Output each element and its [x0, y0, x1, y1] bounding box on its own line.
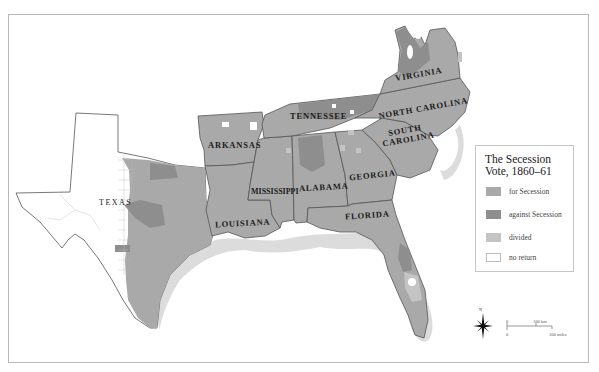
state-arkansas: [198, 112, 264, 166]
state-texas: [16, 113, 215, 328]
swatch-against-secession: [486, 210, 501, 219]
scale-labels: 0 100 km 0 100 miles: [505, 318, 575, 350]
legend-title: The Secession Vote, 1860–61: [485, 153, 573, 177]
legend: The Secession Vote, 1860–61 for Secessio…: [475, 145, 574, 272]
compass-rose-icon: N: [473, 307, 493, 339]
legend-label: divided: [509, 233, 532, 242]
swatch-no-return: [486, 253, 501, 262]
label-texas: TEXAS: [99, 199, 132, 207]
label-tennessee: TENNESSEE: [290, 112, 347, 121]
legend-label: for Secession: [509, 187, 549, 196]
legend-label: no return: [509, 253, 536, 262]
scale-km-label: 100 km: [533, 319, 547, 324]
legend-item-no-return: no return: [486, 252, 536, 262]
legend-item-divided: divided: [486, 232, 532, 242]
label-arkansas: ARKANSAS: [208, 141, 261, 150]
legend-item-against-secession: against Secession: [486, 209, 562, 219]
legend-label: against Secession: [509, 210, 562, 219]
scale-mi-zero: 0: [506, 332, 508, 337]
label-mississippi: MISSISSIPPI: [251, 188, 299, 196]
swatch-for-secession: [486, 187, 501, 196]
swatch-divided: [486, 233, 501, 242]
scale-km-zero: 0: [506, 319, 508, 324]
compass-north-label: N: [479, 307, 482, 312]
legend-item-for-secession: for Secession: [486, 186, 549, 196]
scale-mi-label: 100 miles: [549, 332, 567, 337]
